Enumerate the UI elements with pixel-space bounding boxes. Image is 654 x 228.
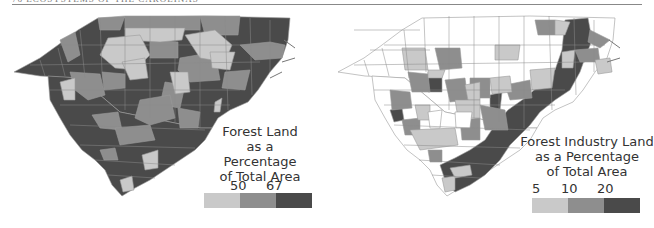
legend-swatch-high: [276, 193, 312, 208]
legend-tick: 67: [266, 178, 283, 193]
legend-tick: 5: [532, 181, 540, 196]
legend-tick: 10: [561, 181, 578, 196]
forest-land-legend-bar: [204, 193, 312, 208]
forest-industry-legend-bar: [532, 198, 640, 213]
legend-swatch-low: [532, 198, 568, 213]
legend-swatch-low: [204, 193, 240, 208]
legend-swatch-mid: [240, 193, 276, 208]
forest-industry-legend-title: Forest Industry Land as a Percentage of …: [520, 134, 654, 179]
legend-swatch-high: [604, 198, 640, 213]
forest-land-legend-title: Forest Land as a Percentage of Total Are…: [210, 124, 310, 184]
legend-tick: 50: [230, 178, 247, 193]
legend-swatch-mid: [568, 198, 604, 213]
legend-tick: 20: [597, 181, 614, 196]
